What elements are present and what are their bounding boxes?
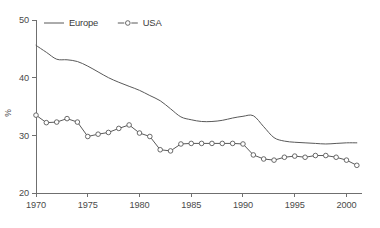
data-point-marker	[355, 163, 360, 168]
legend-marker-icon	[126, 21, 131, 26]
data-point-marker	[44, 120, 49, 125]
line-chart-canvas: EuropeUSA 203040501970197519801985199019…	[0, 0, 380, 228]
data-point-marker	[54, 120, 59, 125]
axis-labels-group: 203040501970197519801985199019952000%	[3, 15, 356, 210]
data-point-marker	[292, 154, 297, 159]
x-axis-tick-label: 1980	[129, 200, 149, 210]
y-axis-title: %	[3, 109, 13, 117]
y-axis-tick-label: 40	[19, 73, 29, 83]
data-point-marker	[230, 141, 235, 146]
data-series-group	[34, 45, 359, 167]
axes-group	[32, 20, 362, 197]
chart-figure: EuropeUSA 203040501970197519801985199019…	[0, 0, 380, 228]
data-point-marker	[85, 134, 90, 139]
y-axis-tick-label: 20	[19, 188, 29, 198]
x-axis-tick-label: 1970	[26, 200, 46, 210]
data-point-marker	[96, 132, 101, 137]
data-point-marker	[261, 157, 266, 162]
data-point-marker	[189, 141, 194, 146]
legend-label: USA	[143, 17, 163, 28]
legend-label: Europe	[69, 17, 98, 28]
legend-entry-europe: Europe	[44, 17, 98, 28]
data-point-marker	[34, 113, 39, 118]
data-point-marker	[148, 134, 153, 139]
data-point-marker	[282, 155, 287, 160]
legend-entry-usa: USA	[118, 17, 163, 28]
x-axis-tick-label: 1995	[285, 200, 305, 210]
chart-legend: EuropeUSA	[44, 17, 162, 28]
data-point-marker	[272, 158, 277, 163]
data-point-marker	[199, 141, 204, 146]
data-point-marker	[241, 142, 246, 147]
data-point-marker	[168, 149, 173, 154]
data-point-marker	[127, 123, 132, 128]
data-point-marker	[220, 141, 225, 146]
data-point-marker	[323, 153, 328, 158]
x-axis-tick-label: 1975	[78, 200, 98, 210]
series-line-europe	[36, 45, 357, 144]
data-point-marker	[313, 153, 318, 158]
data-point-marker	[303, 155, 308, 160]
data-point-marker	[116, 126, 121, 131]
series-europe	[36, 45, 357, 144]
data-point-marker	[344, 158, 349, 163]
y-axis-tick-label: 50	[19, 15, 29, 25]
data-point-marker	[65, 116, 70, 121]
data-point-marker	[251, 153, 256, 158]
data-point-marker	[179, 142, 184, 147]
y-axis-tick-label: 30	[19, 131, 29, 141]
data-point-marker	[106, 130, 111, 135]
series-line-usa	[36, 115, 357, 165]
data-point-marker	[210, 141, 215, 146]
data-point-marker	[75, 120, 80, 125]
x-axis-tick-label: 1985	[181, 200, 201, 210]
x-axis-tick-label: 1990	[233, 200, 253, 210]
x-axis-tick-label: 2000	[336, 200, 356, 210]
data-point-marker	[158, 147, 163, 152]
data-point-marker	[137, 131, 142, 136]
data-point-marker	[334, 155, 339, 160]
